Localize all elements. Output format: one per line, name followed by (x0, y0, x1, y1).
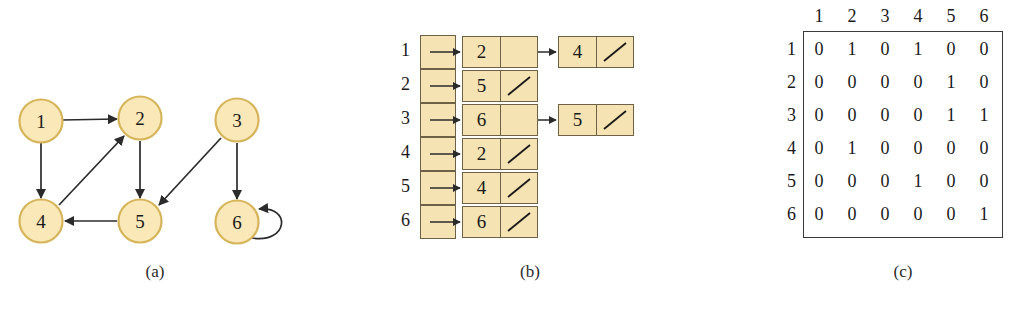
matrix-cell-4-1: 0 (806, 138, 832, 159)
matrix-cell-1-5: 0 (938, 39, 964, 60)
matrix-cell-4-3: 0 (872, 138, 898, 159)
graph-vertex-5: 5 (119, 200, 162, 243)
matrix-col-header-3: 3 (872, 6, 898, 27)
matrix-row-header-4: 4 (776, 138, 796, 159)
matrix-col-header-2: 2 (839, 6, 865, 27)
adjlist-node-1-0-next (500, 37, 537, 67)
adjlist-node-3-0: 6 (462, 104, 538, 136)
matrix-cell-1-4: 1 (905, 39, 931, 60)
adjlist-node-1-1-value: 4 (559, 37, 596, 67)
adjlist-node-3-1-null (596, 105, 633, 135)
matrix-cell-6-1: 0 (806, 204, 832, 225)
adjlist-node-4-0: 2 (462, 138, 538, 170)
matrix-col-header-6: 6 (971, 6, 997, 27)
matrix-cell-2-6: 0 (971, 72, 997, 93)
matrix-cell-1-1: 0 (806, 39, 832, 60)
matrix-row-header-6: 6 (776, 204, 796, 225)
graph-vertex-4-label: 4 (36, 211, 46, 232)
edge-4-2 (59, 136, 124, 205)
adjlist-node-2-0-null (500, 71, 537, 101)
adjlist-node-4-0-value: 2 (463, 139, 500, 169)
adjlist-node-1-1: 4 (558, 36, 634, 68)
adjacency-matrix-panel: 1 2 3 4 5 6 1 2 3 4 5 6 0 1 0 1 0 0 0 0 … (740, 0, 1023, 270)
graph-panel: 1 2 3 4 5 6 (a) (0, 0, 330, 270)
caption-c: (c) (873, 262, 933, 282)
matrix-cell-2-2: 0 (839, 72, 865, 93)
edge-1-2 (62, 119, 117, 120)
matrix-col-header-5: 5 (938, 6, 964, 27)
matrix-cell-6-2: 0 (839, 204, 865, 225)
matrix-cell-6-4: 0 (905, 204, 931, 225)
matrix-row-header-2: 2 (776, 72, 796, 93)
adjlist-node-3-1-value: 5 (559, 105, 596, 135)
matrix-cell-3-1: 0 (806, 105, 832, 126)
graph-vertex-1: 1 (20, 100, 63, 143)
matrix-cell-3-6: 1 (971, 105, 997, 126)
matrix-cell-1-6: 0 (971, 39, 997, 60)
adjlist-node-4-0-null (500, 139, 537, 169)
graph-vertex-4: 4 (20, 200, 63, 243)
adjlist-node-3-1: 5 (558, 104, 634, 136)
edge-3-5 (159, 138, 221, 205)
adjlist-node-5-0-value: 4 (463, 173, 500, 203)
matrix-cell-2-5: 1 (938, 72, 964, 93)
adjlist-node-1-0: 2 (462, 36, 538, 68)
caption-b: (b) (500, 262, 560, 282)
adjlist-node-6-0-null (500, 207, 537, 237)
graph-vertices: 1 2 3 4 5 6 (20, 97, 259, 244)
matrix-cell-5-6: 0 (971, 171, 997, 192)
adjlist-node-2-0: 5 (462, 70, 538, 102)
adjlist-node-6-0-value: 6 (463, 207, 500, 237)
matrix-cell-3-3: 0 (872, 105, 898, 126)
matrix-cell-6-5: 0 (938, 204, 964, 225)
graph-diagram: 1 2 3 4 5 6 (0, 0, 330, 270)
matrix-cell-2-1: 0 (806, 72, 832, 93)
matrix-cell-2-4: 0 (905, 72, 931, 93)
matrix-cell-6-6: 1 (971, 204, 997, 225)
matrix-cell-3-5: 1 (938, 105, 964, 126)
matrix-row-header-1: 1 (776, 39, 796, 60)
adjacency-list-panel: 1 2 3 4 5 6 2 4 (380, 0, 670, 270)
graph-vertex-1-label: 1 (36, 111, 46, 132)
matrix-cell-5-3: 0 (872, 171, 898, 192)
matrix-row-header-5: 5 (776, 171, 796, 192)
matrix-col-header-1: 1 (806, 6, 832, 27)
matrix-cell-4-5: 0 (938, 138, 964, 159)
adjlist-node-6-0: 6 (462, 206, 538, 238)
graph-vertex-2-label: 2 (135, 108, 145, 129)
matrix-cell-3-4: 0 (905, 105, 931, 126)
matrix-cell-2-3: 0 (872, 72, 898, 93)
graph-vertex-6: 6 (216, 201, 259, 244)
adjlist-node-1-0-value: 2 (463, 37, 500, 67)
matrix-cell-5-1: 0 (806, 171, 832, 192)
matrix-col-header-4: 4 (905, 6, 931, 27)
graph-vertex-3-label: 3 (232, 110, 242, 131)
graph-vertex-5-label: 5 (135, 211, 145, 232)
adjlist-node-5-0: 4 (462, 172, 538, 204)
adjlist-node-2-0-value: 5 (463, 71, 500, 101)
adjlist-node-5-0-null (500, 173, 537, 203)
adjlist-node-1-1-null (596, 37, 633, 67)
matrix-row-header-3: 3 (776, 105, 796, 126)
matrix-cell-4-4: 0 (905, 138, 931, 159)
adjlist-node-3-0-next (500, 105, 537, 135)
matrix-cell-6-3: 0 (872, 204, 898, 225)
adjlist-node-3-0-value: 6 (463, 105, 500, 135)
matrix-cell-5-5: 0 (938, 171, 964, 192)
matrix-cell-4-2: 1 (839, 138, 865, 159)
matrix-cell-5-2: 0 (839, 171, 865, 192)
graph-vertex-3: 3 (216, 99, 259, 142)
matrix-cell-3-2: 0 (839, 105, 865, 126)
matrix-cell-5-4: 1 (905, 171, 931, 192)
graph-vertex-6-label: 6 (232, 212, 242, 233)
matrix-cell-4-6: 0 (971, 138, 997, 159)
matrix-cell-1-2: 1 (839, 39, 865, 60)
matrix-cell-1-3: 0 (872, 39, 898, 60)
graph-vertex-2: 2 (119, 97, 162, 140)
caption-a: (a) (125, 262, 185, 282)
